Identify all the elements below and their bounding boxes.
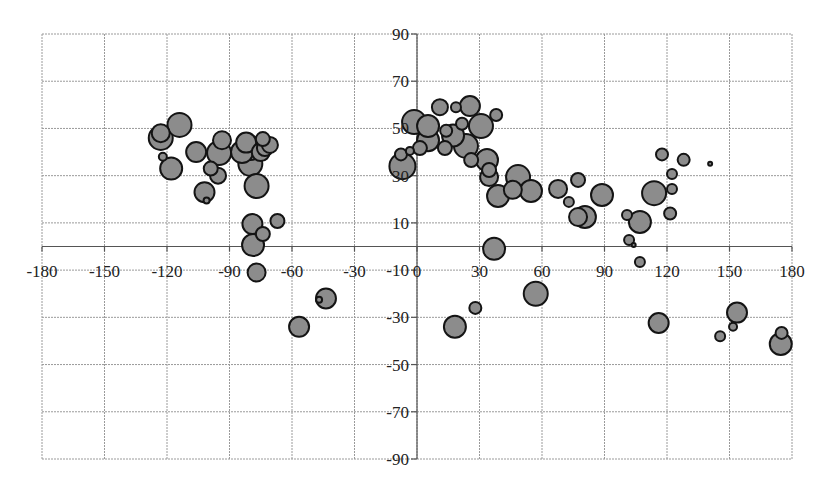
data-bubble	[469, 114, 493, 138]
data-bubble	[406, 147, 414, 155]
data-bubble	[413, 141, 427, 155]
x-tick-label: -120	[151, 262, 182, 281]
y-tick-label: 70	[392, 72, 409, 91]
data-bubble	[520, 180, 542, 202]
data-bubble	[245, 174, 269, 198]
data-bubble	[204, 197, 210, 203]
data-bubble	[667, 184, 677, 194]
y-tick-label: -10	[386, 261, 409, 280]
data-bubble	[438, 141, 452, 155]
y-tick-label: -50	[386, 356, 409, 375]
data-bubble	[204, 162, 218, 176]
data-bubble	[432, 99, 448, 115]
data-bubble	[464, 153, 478, 167]
data-bubble	[417, 115, 439, 137]
data-bubble	[776, 327, 788, 339]
data-bubble	[451, 102, 461, 112]
data-bubble	[708, 162, 712, 166]
data-bubble	[444, 316, 466, 338]
y-tick-label: 90	[392, 25, 409, 44]
data-bubble	[152, 124, 170, 142]
data-bubble	[678, 154, 690, 166]
data-bubble	[186, 142, 206, 162]
data-bubble	[642, 181, 666, 205]
data-bubble	[664, 207, 676, 219]
data-bubble	[549, 180, 567, 198]
data-bubble	[524, 282, 548, 306]
data-bubble	[571, 173, 585, 187]
data-bubble	[168, 113, 192, 137]
y-tick-label: 30	[392, 167, 409, 186]
data-bubble	[569, 208, 587, 226]
data-bubble	[729, 323, 737, 331]
data-bubble	[316, 297, 322, 303]
data-bubble	[591, 184, 613, 206]
data-bubble	[656, 148, 668, 160]
bubble-chart: -180-150-120-90-60-300306090120150180 90…	[0, 0, 831, 494]
y-tick-label: -30	[386, 308, 409, 327]
data-bubble	[564, 197, 574, 207]
data-bubble	[289, 317, 309, 337]
x-tick-label: -90	[218, 262, 241, 281]
y-tick-label: 10	[392, 214, 409, 233]
data-bubble	[440, 125, 452, 137]
data-bubble	[727, 303, 747, 323]
x-tick-label: 60	[534, 262, 551, 281]
x-axis-tick-labels: -180-150-120-90-60-300306090120150180	[26, 262, 804, 281]
x-tick-label: 120	[654, 262, 680, 281]
x-tick-label: -60	[281, 262, 304, 281]
y-tick-label: 50	[392, 119, 409, 138]
data-bubble	[469, 302, 481, 314]
data-bubble	[635, 257, 645, 267]
x-tick-label: 0	[413, 262, 422, 281]
data-bubble	[256, 227, 270, 241]
data-bubble	[456, 118, 468, 130]
x-tick-label: 150	[717, 262, 743, 281]
data-bubble	[159, 153, 167, 161]
data-bubble	[270, 214, 284, 228]
bubble-series	[149, 96, 792, 355]
x-tick-label: -30	[343, 262, 366, 281]
data-bubble	[460, 96, 480, 116]
y-tick-label: -70	[386, 403, 409, 422]
data-bubble	[632, 243, 636, 247]
data-bubble	[483, 238, 505, 260]
data-bubble	[256, 132, 270, 146]
data-bubble	[504, 181, 522, 199]
x-tick-label: -150	[89, 262, 120, 281]
data-bubble	[715, 331, 725, 341]
data-bubble	[622, 210, 632, 220]
data-bubble	[667, 169, 677, 179]
x-tick-label: -180	[26, 262, 57, 281]
x-tick-label: 30	[471, 262, 488, 281]
data-bubble	[490, 109, 502, 121]
data-bubble	[248, 263, 266, 281]
data-bubble	[213, 131, 231, 149]
x-tick-label: 90	[596, 262, 613, 281]
axes	[42, 34, 792, 459]
y-tick-label: -90	[386, 450, 409, 469]
x-tick-label: 180	[779, 262, 805, 281]
data-bubble	[649, 313, 669, 333]
data-bubble	[482, 163, 496, 177]
